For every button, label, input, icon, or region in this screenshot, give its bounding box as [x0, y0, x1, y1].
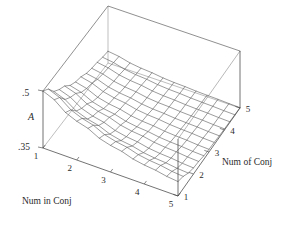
y-tick-label: 3: [215, 148, 220, 158]
surface-mesh: [43, 51, 240, 181]
x-tick-label: 5: [169, 199, 174, 209]
surface-plot-figure: 1234512345 .5 A .35 Num in Conj Num of C…: [0, 0, 302, 232]
plot-canvas: 1234512345 .5 A .35 Num in Conj Num of C…: [0, 0, 302, 232]
y-axis-label: Num of Conj: [222, 157, 272, 167]
x-tick-label: 3: [101, 175, 106, 185]
axis-ticks: 1234512345: [34, 90, 251, 209]
z-axis-label: A: [27, 111, 35, 122]
x-tick-label: 4: [135, 187, 140, 197]
x-tick-label: 2: [68, 163, 73, 173]
y-tick-label: 4: [230, 126, 235, 136]
y-tick-label: 2: [199, 170, 204, 180]
x-axis-label: Num in Conj: [22, 196, 72, 206]
x-tick-label: 1: [34, 151, 39, 161]
z-tick-high: .5: [22, 88, 29, 98]
y-tick-label: 5: [246, 104, 251, 114]
z-tick-low: .35: [18, 142, 30, 152]
y-tick-label: 1: [184, 192, 189, 202]
